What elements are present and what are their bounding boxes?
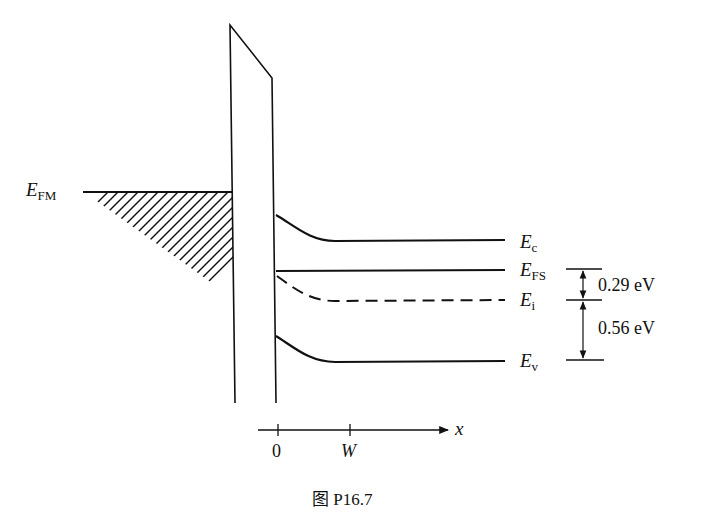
x-tick-label-0: 0 [272, 442, 281, 460]
label-efs: EFS [520, 260, 546, 282]
intrinsic-level-ei [277, 276, 505, 301]
valence-band-ev [276, 336, 505, 362]
gap-value-056: 0.56 eV [598, 319, 655, 337]
label-efm: EFM [26, 180, 56, 202]
label-ev: Ev [520, 351, 538, 373]
metal-hatch-region [60, 190, 300, 300]
gap-value-029: 0.29 eV [598, 276, 655, 294]
conduction-band-ec [276, 215, 505, 241]
x-axis-label: x [455, 419, 463, 438]
label-ec: Ec [520, 232, 537, 254]
oxide-barrier [230, 25, 276, 403]
x-tick-label-w: W [341, 442, 356, 460]
figure-caption: 图 P16.7 [312, 491, 372, 508]
label-ei: Ei [520, 290, 535, 312]
semiconductor-fermi-level-efs [276, 270, 505, 271]
